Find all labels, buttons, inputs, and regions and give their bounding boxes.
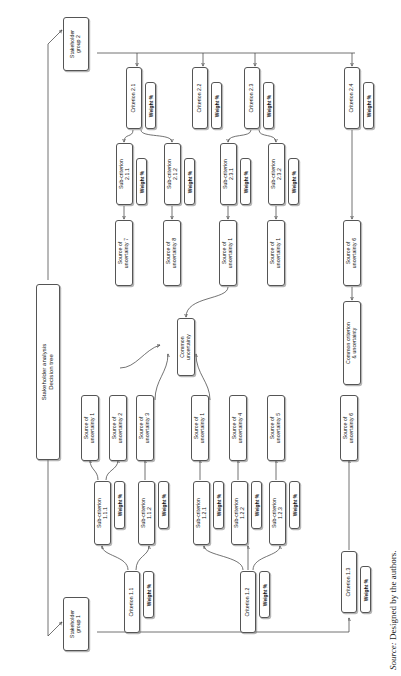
criterion-1-2-label: Criterion 1.2 [245, 588, 251, 617]
sub-criterion-1-2-3-label: Sub-criterion1.2.3 [272, 498, 284, 528]
criterion-2-4-weight-label: Weight % [366, 94, 372, 116]
criterion-2-1-weight[interactable]: Weight % [145, 82, 156, 129]
criterion-2-1-label: Criterion 2.1 [131, 84, 137, 113]
sub-criterion-1-2-2-weight-label: Weight % [254, 494, 260, 516]
source-of-uncertainty-6-bottom-box[interactable]: Source ofuncertainty 6 [340, 395, 358, 461]
source-of-uncertainty-2-label: Source ofuncertainty 2 [112, 413, 124, 443]
figure-caption-text: Designed by the authors. [388, 551, 398, 640]
sub-criterion-2-1-2-box[interactable]: Sub-criterion2.1.2 [164, 143, 181, 205]
criterion-2-4-label: Criterion 2.4 [349, 84, 355, 113]
criterion-1-1-label: Criterion 1.1 [129, 588, 135, 617]
criterion-1-1-weight-label: Weight % [146, 583, 152, 605]
sub-criterion-2-1-2-weight-label: Weight % [187, 170, 193, 192]
criterion-1-1-box[interactable]: Criterion 1.1 [124, 571, 140, 633]
source-of-uncertainty-1-top-a-box[interactable]: Source ofuncertainty 1 [219, 220, 237, 286]
sub-criterion-1-2-2-weight[interactable]: Weight % [251, 481, 262, 529]
stakeholder-group-1-box[interactable]: Stakeholder group 1 [63, 597, 89, 651]
sub-criterion-2-1-2-label: Sub-criterion2.1.2 [167, 159, 179, 189]
sub-criterion-2-3-2-weight[interactable]: Weight % [288, 158, 299, 205]
criterion-2-3-label: Criterion 2.3 [249, 84, 255, 113]
source-of-uncertainty-3-label: Source ofuncertainty 3 [139, 413, 151, 443]
sub-criterion-1-1-2-weight[interactable]: Weight % [158, 481, 169, 529]
sub-criterion-1-1-1-box[interactable]: Sub-criterion1.1.1 [94, 481, 111, 545]
criterion-2-3-box[interactable]: Criterion 2.3 [244, 67, 260, 129]
sub-criterion-1-2-3-weight-label: Weight % [292, 494, 298, 516]
criterion-1-3-weight[interactable]: Weight % [360, 566, 371, 613]
criterion-1-1-weight[interactable]: Weight % [143, 571, 154, 618]
sub-criterion-2-1-1-weight[interactable]: Weight % [136, 158, 147, 205]
source-of-uncertainty-8-box[interactable]: Source ofuncertainty 8 [163, 220, 181, 286]
sub-criterion-2-1-2-weight[interactable]: Weight % [184, 158, 195, 205]
criterion-2-4-weight[interactable]: Weight % [363, 82, 374, 129]
source-of-uncertainty-3-box[interactable]: Source ofuncertainty 3 [136, 395, 154, 461]
sub-criterion-2-3-1-label: Sub-criterion2.3.1 [223, 159, 235, 189]
sub-criterion-1-2-2-box[interactable]: Sub-criterion1.2.2 [231, 481, 248, 545]
stakeholder-group-2-box[interactable]: Stakeholder group 2 [63, 17, 89, 71]
criterion-1-3-box[interactable]: Criterion 1.3 [341, 551, 357, 613]
sub-criterion-2-3-1-box[interactable]: Sub-criterion2.3.1 [220, 143, 237, 205]
sub-criterion-2-1-1-weight-label: Weight % [139, 170, 145, 192]
decision-tree-title-label: Stakeholder analysis Decision tree [41, 344, 54, 400]
criterion-1-2-box[interactable]: Criterion 1.2 [240, 571, 256, 633]
source-of-uncertainty-6-top-label: Source ofuncertainty 6 [346, 238, 358, 268]
source-of-uncertainty-1-top-b-label: Source ofuncertainty 1 [270, 238, 282, 268]
criterion-2-2-box[interactable]: Criterion 2.2 [192, 67, 208, 129]
common-criterion-uncertainty-box[interactable]: Common criterion& uncertainty [343, 301, 361, 385]
source-of-uncertainty-1-top-b-box[interactable]: Source ofuncertainty 1 [267, 220, 285, 286]
criterion-1-3-label: Criterion 1.3 [346, 568, 352, 597]
sub-criterion-1-2-1-weight-label: Weight % [216, 494, 222, 516]
criterion-2-2-weight-label: Weight % [214, 94, 220, 116]
source-of-uncertainty-1-bottom-label: Source ofuncertainty 1 [84, 413, 96, 443]
sub-criterion-1-1-2-label: Sub-criterion1.1.2 [141, 498, 153, 528]
criterion-2-2-weight[interactable]: Weight % [211, 82, 222, 129]
criterion-2-2-label: Criterion 2.2 [197, 84, 203, 113]
source-of-uncertainty-5-label: Source ofuncertainty 5 [270, 413, 282, 443]
criterion-2-1-weight-label: Weight % [148, 94, 154, 116]
sub-criterion-1-1-2-box[interactable]: Sub-criterion1.1.2 [138, 481, 155, 545]
source-of-uncertainty-4-label: Source ofuncertainty 4 [232, 413, 244, 443]
source-of-uncertainty-5-box[interactable]: Source ofuncertainty 5 [267, 395, 285, 461]
criterion-2-3-weight[interactable]: Weight % [263, 82, 274, 129]
source-of-uncertainty-1-bottom-b-label: Source ofuncertainty 1 [194, 413, 206, 443]
criterion-2-1-box[interactable]: Criterion 2.1 [126, 67, 142, 129]
source-of-uncertainty-8-label: Source ofuncertainty 8 [166, 238, 178, 268]
figure-caption-prefix: Source: [388, 642, 398, 670]
source-of-uncertainty-1-bottom-b-box[interactable]: Source ofuncertainty 1 [191, 395, 209, 461]
source-of-uncertainty-4-box[interactable]: Source ofuncertainty 4 [229, 395, 247, 461]
sub-criterion-2-3-2-label: Sub-criterion2.3.2 [271, 159, 283, 189]
sub-criterion-2-1-1-label: Sub-criterion2.1.1 [119, 159, 131, 189]
source-of-uncertainty-7-box[interactable]: Source ofuncertainty 7 [115, 220, 133, 286]
sub-criterion-1-2-1-box[interactable]: Sub-criterion1.2.1 [193, 481, 210, 545]
sub-criterion-2-3-2-weight-label: Weight % [291, 170, 297, 192]
common-criterion-uncertainty-label: Common criterion& uncertainty [346, 322, 358, 364]
sub-criterion-2-3-2-box[interactable]: Sub-criterion2.3.2 [268, 143, 285, 205]
sub-criterion-1-2-1-weight[interactable]: Weight % [213, 481, 224, 529]
criterion-1-2-weight-label: Weight % [262, 583, 268, 605]
stakeholder-group-2-label: Stakeholder group 2 [70, 30, 82, 58]
source-of-uncertainty-6-top-box[interactable]: Source ofuncertainty 6 [343, 220, 361, 286]
stakeholder-group-1-label: Stakeholder group 1 [70, 610, 82, 638]
sub-criterion-2-3-1-weight[interactable]: Weight % [240, 158, 251, 205]
source-of-uncertainty-6-bottom-label: Source ofuncertainty 6 [343, 413, 355, 443]
source-of-uncertainty-2-box[interactable]: Source ofuncertainty 2 [109, 395, 127, 461]
criterion-2-3-weight-label: Weight % [266, 94, 272, 116]
criterion-1-3-weight-label: Weight % [363, 578, 369, 600]
decision-tree-title-box: Stakeholder analysis Decision tree [36, 284, 60, 460]
criterion-1-2-weight[interactable]: Weight % [259, 571, 270, 618]
common-uncertainty-box[interactable]: Commonuncertainty [177, 318, 195, 376]
sub-criterion-1-1-1-weight-label: Weight % [117, 494, 123, 516]
criterion-2-4-box[interactable]: Criterion 2.4 [344, 67, 360, 129]
sub-criterion-1-2-3-box[interactable]: Sub-criterion1.2.3 [269, 481, 286, 545]
common-uncertainty-label: Commonuncertainty [180, 334, 192, 360]
sub-criterion-1-2-3-weight[interactable]: Weight % [289, 481, 300, 529]
sub-criterion-1-1-1-label: Sub-criterion1.1.1 [97, 498, 109, 528]
decision-tree-figure: Stakeholder analysis Decision tree Stake… [0, 0, 401, 676]
sub-criterion-2-1-1-box[interactable]: Sub-criterion2.1.1 [116, 143, 133, 205]
sub-criterion-2-3-1-weight-label: Weight % [243, 170, 249, 192]
sub-criterion-1-1-1-weight[interactable]: Weight % [114, 481, 125, 529]
source-of-uncertainty-7-label: Source ofuncertainty 7 [118, 238, 130, 268]
source-of-uncertainty-1-bottom-box[interactable]: Source ofuncertainty 1 [81, 395, 99, 461]
sub-criterion-1-1-2-weight-label: Weight % [161, 494, 167, 516]
source-of-uncertainty-1-top-a-label: Source ofuncertainty 1 [222, 238, 234, 268]
figure-caption: Source: Designed by the authors. [388, 551, 398, 670]
